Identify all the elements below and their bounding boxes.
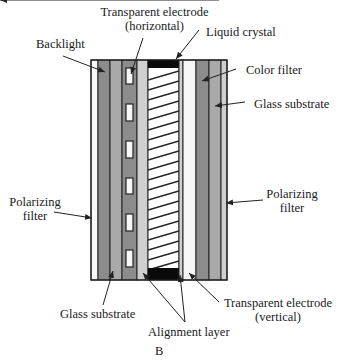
label-glass-substrate-bottom: Glass substrate xyxy=(60,307,135,321)
arrow-liquid-crystal xyxy=(176,30,199,59)
glass-substrate-left-layer xyxy=(110,60,122,280)
seal-top xyxy=(148,60,179,68)
alignment-layer-left xyxy=(137,60,148,280)
figure-caption: B xyxy=(155,344,163,358)
label-line: Transparent electrode xyxy=(218,296,338,310)
backlight-layer xyxy=(91,60,98,280)
seal-bottom xyxy=(148,268,179,280)
label-alignment-layer: Alignment layer xyxy=(148,325,230,339)
label-polarizing-filter-left: Polarizing filter xyxy=(5,195,65,223)
label-transparent-electrode-horizontal: Transparent electrode (horizontal) xyxy=(92,5,217,33)
transparent-electrode-vertical-layer xyxy=(183,60,196,280)
glass-substrate-right-layer xyxy=(209,60,221,280)
polarizing-filter-left-layer xyxy=(98,60,110,280)
label-line: filter xyxy=(262,201,322,215)
color-filter-layer xyxy=(196,60,209,280)
alignment-layer-right xyxy=(179,60,183,280)
label-polarizing-filter-right: Polarizing filter xyxy=(262,187,322,215)
label-line: filter xyxy=(5,209,65,223)
arrow-alignment-layer-right xyxy=(180,275,185,322)
label-color-filter: Color filter xyxy=(246,63,302,77)
label-liquid-crystal: Liquid crystal xyxy=(206,25,276,39)
label-glass-substrate-right: Glass substrate xyxy=(254,97,329,111)
label-line: Polarizing xyxy=(262,187,322,201)
label-line: Polarizing xyxy=(5,195,65,209)
arrow-polarizing-filter-right xyxy=(226,200,263,203)
label-line: (vertical) xyxy=(218,310,338,324)
label-line: Transparent electrode xyxy=(92,5,217,19)
electrode-carrier-layer xyxy=(122,60,137,280)
label-transparent-electrode-vertical: Transparent electrode (vertical) xyxy=(218,296,338,324)
label-backlight: Backlight xyxy=(36,37,85,51)
label-line: (horizontal) xyxy=(92,19,217,33)
polarizing-filter-right-layer xyxy=(221,60,227,280)
